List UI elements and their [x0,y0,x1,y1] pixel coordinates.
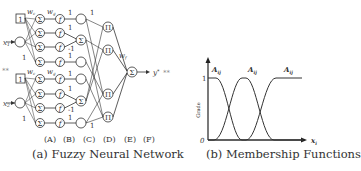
svg-text:Σ: Σ [130,69,135,77]
svg-text:f: f [58,105,63,113]
svg-text:Σ: Σ [38,105,43,113]
svg-text:1: 1 [202,75,206,83]
svg-text:(B): (B) [63,135,75,144]
svg-text:wg: wg [47,8,56,16]
svg-text:f: f [58,44,63,52]
svg-text:Π: Π [105,91,111,99]
input-node-x2 [15,98,25,108]
svg-text:f: f [58,120,63,128]
svg-text:wf: wf [119,52,128,60]
svg-text:Π: Π [105,24,111,32]
svg-text:Σ: Σ [38,16,43,24]
svg-text:-1: -1 [68,106,75,114]
svg-text:xi: xi [310,136,317,146]
membership-chart: 1 0 Grade xi Aij Aij Aij [195,57,317,146]
svg-text:1: 1 [90,9,94,17]
caption-fuzzy-neural-network: (a) Fuzzy Neural Network [32,147,184,161]
svg-text:(A): (A) [44,135,56,144]
svg-text:1: 1 [68,70,72,78]
svg-text:f: f [58,76,63,84]
svg-text:1: 1 [22,54,26,62]
svg-text:f: f [58,59,63,67]
bias-label-upper: 1 [18,16,22,24]
svg-text:1: 1 [68,85,72,93]
svg-text:Σ: Σ [38,59,43,67]
svg-text:y*: y* [152,68,160,77]
svg-text:Σ: Σ [38,120,43,128]
caption-membership-functions: (b) Membership Functions [206,147,361,161]
svg-text:Σ: Σ [38,76,43,84]
svg-text:Π: Π [105,114,111,122]
svg-text:0: 0 [200,137,205,145]
svg-text:wc: wc [27,68,36,76]
svg-text:Σ: Σ [79,98,84,106]
svg-text:x1: x1 [3,39,10,48]
input-node-x1 [15,37,25,47]
svg-text:1: 1 [22,115,26,123]
stray-marks-left: ** [2,67,10,75]
svg-text:Aij: Aij [283,65,293,75]
svg-text:f: f [58,30,63,38]
svg-text:f: f [58,16,63,24]
bias-label-lower: 1 [18,76,22,84]
svg-text:(C): (C) [83,135,95,144]
svg-text:x2: x2 [3,100,10,109]
svg-text:Σ: Σ [38,91,43,99]
svg-text:Σ: Σ [38,44,43,52]
svg-text:1: 1 [90,122,94,130]
layer-labels: (A) (B) (C) (D) (E) (F) [44,135,155,144]
svg-text:Aij: Aij [247,65,257,75]
svg-text:Aij: Aij [211,65,221,75]
svg-text:wg: wg [47,68,56,76]
svg-text:1: 1 [68,24,72,32]
svg-text:(D): (D) [103,135,116,144]
svg-text:1: 1 [68,9,72,17]
svg-text:1: 1 [68,114,72,122]
svg-text:(F): (F) [143,135,155,144]
svg-text:(E): (E) [124,135,136,144]
svg-text:1: 1 [68,52,72,60]
svg-text:wc: wc [27,8,36,16]
svg-text:Σ: Σ [79,37,84,45]
svg-text:Grade: Grade [195,102,201,118]
svg-text:Σ: Σ [38,30,43,38]
svg-text:Π: Π [105,47,111,55]
stray-marks-right: ** [163,69,171,77]
svg-text:f: f [58,91,63,99]
